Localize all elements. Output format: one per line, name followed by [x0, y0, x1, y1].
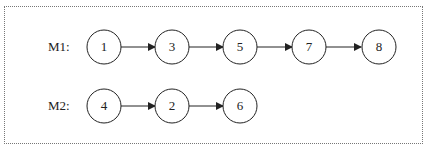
- node-label: 8: [376, 39, 383, 54]
- node-m2-4: 4: [87, 89, 121, 123]
- node-m2-6: 6: [223, 89, 257, 123]
- node-m1-3: 3: [155, 30, 189, 64]
- node-label: 7: [306, 39, 313, 54]
- node-label: 2: [169, 98, 176, 113]
- row-label-m1: M1:: [48, 39, 70, 54]
- row-label-m2: M2:: [48, 98, 70, 113]
- node-m1-1: 1: [87, 30, 121, 64]
- node-m1-7: 7: [292, 30, 326, 64]
- node-label: 6: [237, 98, 244, 113]
- node-m2-2: 2: [155, 89, 189, 123]
- row-m1: M1: 1 3 5 7 8: [48, 30, 396, 64]
- node-label: 3: [169, 39, 176, 54]
- node-m1-5: 5: [223, 30, 257, 64]
- row-m2: M2: 4 2 6: [48, 89, 257, 123]
- node-label: 5: [237, 39, 244, 54]
- node-label: 1: [101, 39, 108, 54]
- sequence-diagram: M1: 1 3 5 7 8 M2: 4: [0, 0, 427, 155]
- node-m1-8: 8: [362, 30, 396, 64]
- node-label: 4: [101, 98, 108, 113]
